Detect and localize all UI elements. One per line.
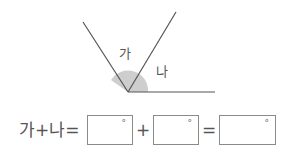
angle-figure [0,0,288,105]
angle-diagram: 가 나 [0,0,288,105]
ray-middle [128,12,176,92]
equation-lhs: 가+나= [19,122,80,139]
answer-box-3[interactable]: ° [219,115,276,145]
angle-label-na: 나 [156,65,168,78]
angle-sum-equation: 가+나= ° + ° = ° [0,112,288,152]
degree-symbol: ° [265,119,270,128]
angle-label-ga: 가 [119,47,131,60]
answer-box-1[interactable]: ° [87,115,133,145]
degree-symbol: ° [188,119,193,128]
degree-symbol: ° [122,119,127,128]
equals-sign: = [202,122,216,139]
plus-sign: + [136,122,150,139]
answer-box-2[interactable]: ° [153,115,199,145]
